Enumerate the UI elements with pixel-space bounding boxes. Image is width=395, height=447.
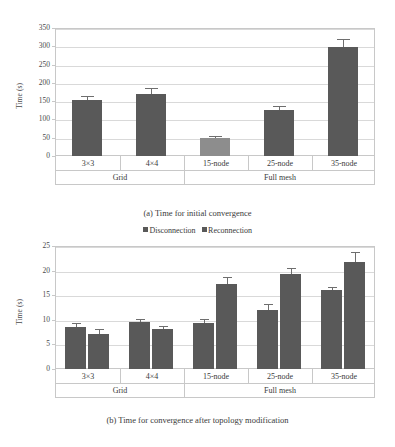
group-label: Full mesh: [184, 171, 376, 185]
bar: [344, 262, 365, 369]
error-bar-cap: [136, 319, 145, 320]
category-label: 15-node: [184, 369, 248, 384]
category-separator: [312, 156, 313, 171]
y-tick-label: 15: [24, 291, 50, 299]
y-tick-mark: [52, 101, 55, 102]
error-bar-cap: [223, 277, 232, 278]
category-label: 25-node: [248, 369, 312, 384]
y-tick-mark: [52, 295, 55, 296]
category-separator: [312, 369, 313, 384]
bar: [193, 323, 214, 369]
bar: [72, 100, 102, 156]
bar: [264, 110, 294, 156]
y-tick-label: 100: [24, 115, 50, 123]
legend-swatch: [143, 227, 148, 232]
error-bar-cap: [81, 96, 94, 97]
group-label: Full mesh: [184, 384, 376, 398]
chart-b-group-axis: GridFull mesh: [55, 384, 375, 398]
y-tick-mark: [52, 65, 55, 66]
y-tick-mark: [52, 119, 55, 120]
legend-label: Disconnection: [149, 226, 195, 235]
error-bar-cap: [209, 136, 222, 137]
y-tick-mark: [52, 138, 55, 139]
error-bar-cap: [337, 39, 350, 40]
y-tick-label: 0: [24, 152, 50, 160]
chart-a-caption: (a) Time for initial convergence: [0, 208, 395, 218]
category-label: 4×4: [120, 369, 184, 384]
y-tick-label: 150: [24, 97, 50, 105]
legend-label: Reconnection: [208, 226, 252, 235]
category-separator: [248, 156, 249, 171]
error-bar-cap: [351, 252, 360, 253]
bar: [200, 138, 230, 156]
group-separator: [184, 384, 185, 398]
y-tick-label: 20: [24, 267, 50, 275]
bar: [280, 274, 301, 369]
category-separator: [120, 369, 121, 384]
y-tick-label: 250: [24, 61, 50, 69]
chart-convergence-after-modification: Time (s) 0510152025 3×34×415-node25-node…: [0, 238, 395, 423]
y-tick-mark: [52, 46, 55, 47]
category-label: 35-node: [312, 369, 376, 384]
chart-initial-convergence: Time (s) 050100150200250300350 3×34×415-…: [0, 0, 395, 205]
y-tick-label: 5: [24, 340, 50, 348]
y-tick-label: 25: [24, 242, 50, 250]
category-label: 3×3: [56, 156, 120, 171]
error-bar: [355, 252, 356, 262]
category-separator: [248, 369, 249, 384]
y-tick-label: 300: [24, 42, 50, 50]
category-label: 3×3: [56, 369, 120, 384]
category-label: 35-node: [312, 156, 376, 171]
chart-a-category-axis: 3×34×415-node25-node35-node: [55, 156, 375, 171]
bar: [136, 94, 166, 156]
category-separator: [184, 156, 185, 171]
category-separator: [120, 156, 121, 171]
bar: [65, 327, 86, 369]
error-bar-cap: [72, 323, 81, 324]
legend-entry: Reconnection: [202, 225, 252, 235]
bar: [216, 284, 237, 369]
bar: [88, 334, 109, 369]
chart-a-group-axis: GridFull mesh: [55, 171, 375, 185]
error-bar: [227, 277, 228, 284]
y-tick-label: 350: [24, 24, 50, 32]
bar: [152, 329, 173, 369]
y-tick-mark: [52, 271, 55, 272]
bar: [328, 47, 358, 156]
chart-b-caption: (b) Time for convergence after topology …: [0, 415, 395, 425]
chart-legend: DisconnectionReconnection: [0, 225, 395, 235]
group-label: Grid: [56, 384, 184, 398]
error-bar-cap: [145, 88, 158, 89]
category-label: 15-node: [184, 156, 248, 171]
chart-b-category-axis: 3×34×415-node25-node35-node: [55, 369, 375, 384]
error-bar-cap: [95, 329, 104, 330]
legend-entry: Disconnection: [143, 225, 196, 235]
figure-convergence-times: Time (s) 050100150200250300350 3×34×415-…: [0, 0, 395, 447]
y-tick-label: 10: [24, 316, 50, 324]
group-label: Grid: [56, 171, 184, 185]
y-tick-mark: [52, 28, 55, 29]
error-bar-cap: [287, 268, 296, 269]
y-tick-mark: [52, 83, 55, 84]
bar: [321, 290, 342, 369]
error-bar-cap: [200, 319, 209, 320]
error-bar-cap: [264, 304, 273, 305]
bar: [257, 310, 278, 369]
category-label: 4×4: [120, 156, 184, 171]
error-bar-cap: [159, 326, 168, 327]
bar: [129, 322, 150, 369]
group-separator: [184, 171, 185, 185]
error-bar: [343, 39, 344, 46]
legend-swatch: [202, 227, 207, 232]
y-tick-label: 50: [24, 134, 50, 142]
y-tick-mark: [52, 246, 55, 247]
y-tick-mark: [52, 320, 55, 321]
category-label: 25-node: [248, 156, 312, 171]
y-tick-label: 200: [24, 79, 50, 87]
error-bar-cap: [273, 106, 286, 107]
y-tick-label: 0: [24, 365, 50, 373]
category-separator: [184, 369, 185, 384]
error-bar-cap: [328, 287, 337, 288]
y-tick-mark: [52, 344, 55, 345]
